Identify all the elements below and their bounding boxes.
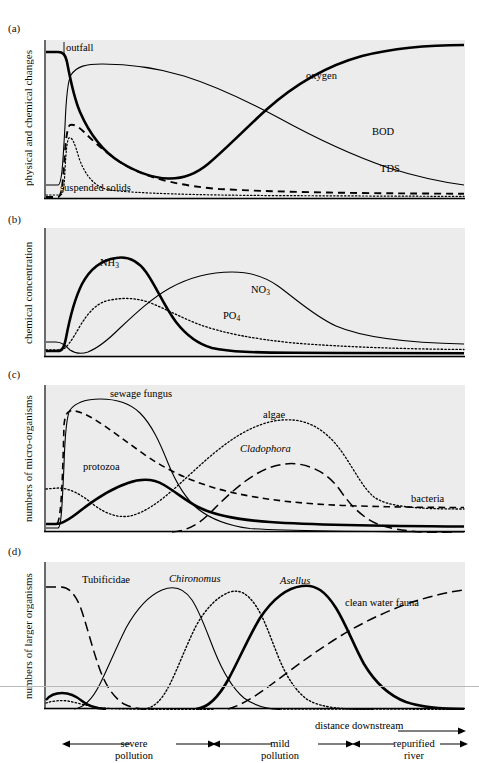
- zone-severe-line2: pollution: [103, 750, 165, 762]
- label-nh3: NH3: [100, 257, 119, 268]
- curve-tubificidae: [74, 588, 280, 710]
- panel-c-ylabel: numbers of micro-organisms: [22, 385, 34, 533]
- zone-severe-pollution: severe pollution: [103, 738, 165, 762]
- panel-b: (b) chemical concentration NH3 NO3 PO4: [0, 205, 479, 365]
- curve-protozoa: [46, 480, 464, 527]
- panel-d-ylabel: numbers of larger organisms: [22, 562, 34, 710]
- panel-b-label: (b): [8, 213, 21, 225]
- label-sewage-fungus: sewage fungus: [110, 388, 172, 399]
- label-no3: NO3: [251, 284, 270, 295]
- panel-c-svg: [44, 385, 465, 533]
- scan-artifact-line: [0, 686, 479, 687]
- curve-chironomus: [144, 591, 374, 709]
- panel-d: (d) numbers of larger organisms Tubifici…: [0, 540, 479, 763]
- zone-repurified-line1: repurified: [378, 738, 450, 750]
- label-chironomus: Chironomus: [169, 573, 221, 584]
- curve-clean-water-fauna-upstream: [46, 587, 154, 710]
- label-suspended-solids: suspended solids: [60, 182, 131, 193]
- zone-mild-line2: pollution: [250, 750, 310, 762]
- label-tds: TDS: [380, 163, 400, 174]
- label-po4: PO4: [223, 310, 240, 321]
- panel-c-label: (c): [8, 368, 20, 380]
- zone-repurified-line2: river: [378, 750, 450, 762]
- label-no3-text: NO: [251, 284, 266, 295]
- curve-po4: [46, 298, 464, 350]
- zone-mild-line1: mild: [250, 738, 310, 750]
- label-bod: BOD: [372, 126, 394, 137]
- label-nh3-sub: 3: [115, 261, 119, 270]
- panel-a-ylabel: physical and chemical changes: [22, 36, 34, 200]
- label-nh3-text: NH: [100, 257, 115, 268]
- label-clean-water-fauna: clean water fauna: [345, 597, 419, 608]
- zone-severe-line1: severe: [103, 738, 165, 750]
- label-outfall: outfall: [66, 42, 93, 53]
- panel-a-svg: [44, 40, 465, 200]
- label-tubificidae: Tubificidae: [82, 574, 130, 585]
- panel-c-plot: [44, 385, 465, 533]
- curve-bod: [46, 64, 464, 185]
- label-bacteria: bacteria: [411, 493, 444, 504]
- zone-mild-pollution: mild pollution: [250, 738, 310, 762]
- label-no3-sub: 3: [266, 288, 270, 297]
- panel-a-plot: [44, 40, 465, 200]
- panel-c: (c) numbers of micro-organisms sewage fu…: [0, 365, 479, 540]
- label-protozoa: protozoa: [83, 461, 120, 472]
- label-oxygen: oxygen: [306, 70, 337, 81]
- panel-b-ylabel: chemical concentration: [22, 228, 34, 358]
- panel-d-label: (d): [8, 545, 21, 557]
- zone-repurified-river: repurified river: [378, 738, 450, 762]
- curve-oxygen: [46, 45, 464, 179]
- label-po4-text: PO: [223, 310, 236, 321]
- panel-a-label: (a): [8, 22, 20, 34]
- label-po4-sub: 4: [236, 314, 240, 323]
- label-asellus: Asellus: [280, 575, 310, 586]
- distance-downstream-label: distance downstream: [315, 720, 403, 731]
- label-cladophora: Cladophora: [240, 443, 291, 454]
- label-algae: algae: [263, 409, 285, 420]
- panel-a: (a) physical and chemical changes outfal…: [0, 0, 479, 205]
